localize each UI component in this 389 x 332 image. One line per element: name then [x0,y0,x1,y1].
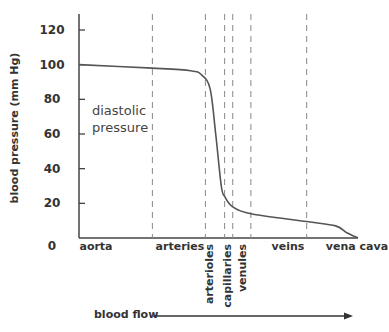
y-tick-label: 100 [39,58,64,72]
region-labels: aortaarteriesarteriolescapillariesvenule… [79,240,388,308]
pressure-curve [79,65,358,238]
y-tick-label: 60 [44,127,61,141]
region-label: aorta [79,240,112,253]
y-tick-label: 0 [48,239,56,253]
y-tick-label: 80 [44,92,61,106]
annotation-line-2: pressure [92,120,148,135]
y-tick-label: 40 [44,162,61,176]
region-label: vena cava [326,240,388,253]
y-tick-label: 20 [44,196,61,210]
y-tick-label: 120 [39,23,64,37]
y-axis-label: blood pressure (mm Hg) [8,53,21,204]
region-label: veins [272,240,305,253]
annotation-line-1: diastolic [92,103,146,118]
blood-pressure-chart: 020406080100120 blood pressure (mm Hg) d… [0,0,389,332]
region-label: arteries [156,240,205,253]
region-label: arterioles [203,244,216,305]
region-label: capillaries [221,244,234,308]
y-ticks: 020406080100120 [39,23,85,253]
region-label: venules [236,244,249,293]
arrow-head-icon [344,313,353,320]
x-axis-label: blood flow [94,308,158,321]
